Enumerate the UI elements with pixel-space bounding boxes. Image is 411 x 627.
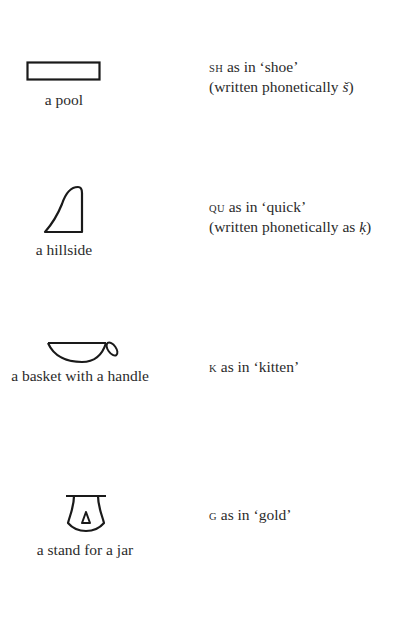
- phonetic-note-suffix: ): [348, 78, 353, 95]
- sound-example: as in ‘shoe’: [223, 58, 298, 75]
- pool-hieroglyph-icon: [26, 61, 102, 82]
- sound-letters: SH: [209, 63, 223, 74]
- sound-letters: QU: [209, 203, 225, 214]
- basket-with-handle-hieroglyph-icon: [46, 339, 122, 365]
- phonetic-note-prefix: (written phonetically as: [209, 218, 359, 235]
- sound-example: as in ‘kitten’: [217, 358, 299, 375]
- sound-letters: K: [209, 363, 217, 374]
- caption-basket: a basket with a handle: [0, 367, 160, 385]
- sound-letters: G: [209, 511, 217, 522]
- sound-example: as in ‘gold’: [217, 506, 291, 523]
- sound-qu: QU as in ‘quick’ (written phonetically a…: [209, 198, 371, 236]
- sound-example: as in ‘quick’: [225, 198, 306, 215]
- phonetic-note-suffix: ): [366, 218, 371, 235]
- caption-jar-stand: a stand for a jar: [22, 541, 148, 559]
- sound-k: K as in ‘kitten’: [209, 358, 299, 378]
- sound-sh: SH as in ‘shoe’ (written phonetically š): [209, 58, 354, 96]
- hillside-hieroglyph-icon: [42, 184, 86, 236]
- jar-stand-hieroglyph-icon: [64, 493, 108, 535]
- caption-pool: a pool: [20, 91, 108, 109]
- sound-g: G as in ‘gold’: [209, 506, 291, 526]
- caption-hillside: a hillside: [14, 241, 114, 259]
- phonetic-note-prefix: (written phonetically: [209, 78, 342, 95]
